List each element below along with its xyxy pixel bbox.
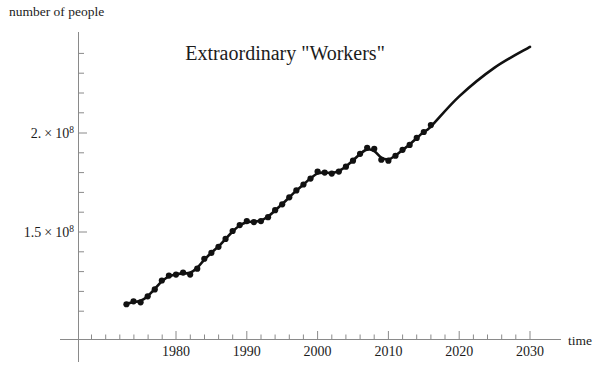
data-point — [371, 146, 377, 152]
data-point — [343, 164, 349, 170]
data-point — [428, 122, 434, 128]
data-point — [279, 201, 285, 207]
data-point — [293, 187, 299, 193]
y-axis — [79, 32, 88, 362]
y-tick-label-2e8: 2.×108 — [31, 125, 74, 141]
y-axis-caption: number of people — [9, 4, 104, 19]
y-tick-exponent: 8 — [69, 224, 74, 234]
x-tick-label-2010: 2010 — [374, 344, 402, 359]
data-point — [215, 244, 221, 250]
data-point — [159, 277, 165, 283]
x-axis — [60, 331, 561, 340]
data-point — [265, 214, 271, 220]
data-point — [237, 222, 243, 228]
data-point — [222, 236, 228, 242]
y-tick-base: 10 — [55, 126, 69, 141]
data-point — [187, 271, 193, 277]
data-point — [357, 151, 363, 157]
y-tick-labels: 2.×108 1.5×108 — [24, 125, 74, 240]
chart-title: Extraordinary "Workers" — [185, 42, 385, 65]
data-point — [407, 142, 413, 148]
data-point — [322, 170, 328, 176]
y-tick-mantissa: 2. — [31, 126, 42, 141]
y-tick-exponent: 8 — [69, 125, 74, 135]
data-point — [385, 158, 391, 164]
y-tick-label-1_5e8: 1.5×108 — [24, 224, 74, 240]
data-point — [315, 169, 321, 175]
data-point — [244, 218, 250, 224]
x-tick-label-2030: 2030 — [516, 344, 544, 359]
data-point — [194, 266, 200, 272]
data-point — [286, 194, 292, 200]
chart-canvas: 1980 1990 2000 2010 2020 2030 2.×108 1.5… — [0, 0, 601, 379]
data-point — [180, 269, 186, 275]
x-tick-label-2000: 2000 — [304, 344, 332, 359]
x-tick-label-2020: 2020 — [445, 344, 473, 359]
data-point — [173, 271, 179, 277]
data-point — [138, 299, 144, 305]
data-point — [123, 301, 129, 307]
data-point — [230, 228, 236, 234]
data-point — [208, 250, 214, 256]
x-axis-caption: time — [568, 333, 592, 348]
y-tick-base: 10 — [55, 225, 69, 240]
data-point — [130, 298, 136, 304]
data-point — [300, 181, 306, 187]
data-point — [272, 207, 278, 213]
data-point — [152, 286, 158, 292]
data-point — [329, 170, 335, 176]
data-point — [350, 158, 356, 164]
y-tick-mantissa: 1.5 — [24, 225, 42, 240]
data-point — [399, 147, 405, 153]
x-tick-label-1980: 1980 — [162, 344, 190, 359]
data-point — [392, 153, 398, 159]
data-point — [166, 272, 172, 278]
data-point — [258, 218, 264, 224]
data-point — [414, 135, 420, 141]
data-point — [201, 256, 207, 262]
fitted-curve — [126, 47, 530, 304]
data-point — [378, 157, 384, 163]
x-tick-label-1990: 1990 — [233, 344, 261, 359]
data-point — [421, 129, 427, 135]
data-point — [364, 145, 370, 151]
data-point — [145, 293, 151, 299]
data-point — [307, 175, 313, 181]
x-tick-labels: 1980 1990 2000 2010 2020 2030 — [162, 344, 544, 359]
data-point — [251, 219, 257, 225]
data-point — [336, 169, 342, 175]
fitted-curve-layer — [126, 47, 530, 304]
data-points-layer — [123, 122, 434, 307]
chart-svg: 1980 1990 2000 2010 2020 2030 2.×108 1.5… — [0, 0, 601, 379]
